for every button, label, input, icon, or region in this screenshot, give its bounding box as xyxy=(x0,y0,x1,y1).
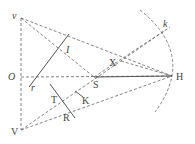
label-r: r xyxy=(31,82,35,93)
arc-through-k xyxy=(140,10,173,112)
label-X: X xyxy=(109,57,117,68)
label-H: H xyxy=(176,71,183,82)
label-I: I xyxy=(65,44,70,55)
solid-lines xyxy=(29,34,172,118)
geometry-diagram: v O V H k X S I r T K R xyxy=(0,0,195,144)
label-R: R xyxy=(63,112,70,123)
label-O: O xyxy=(8,71,15,82)
dashed-construction-lines xyxy=(21,10,173,130)
line-v-S xyxy=(21,18,94,77)
line-I-r xyxy=(29,34,69,87)
line-S-X-k xyxy=(94,31,164,77)
label-V: V xyxy=(11,126,19,137)
line-X-H xyxy=(121,61,172,76)
label-k: k xyxy=(163,18,168,29)
label-v: v xyxy=(12,10,17,21)
line-S-H-solid xyxy=(94,76,172,77)
label-K: K xyxy=(82,95,90,106)
label-S: S xyxy=(93,79,99,90)
label-T: T xyxy=(51,94,57,105)
